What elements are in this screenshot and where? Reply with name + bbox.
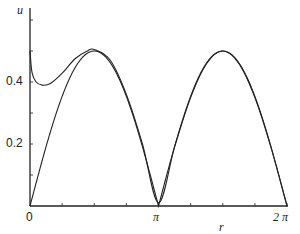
x-tick-label-2pi: 2 π <box>273 210 288 225</box>
x-tick-label-pi: π <box>153 210 159 225</box>
y-tick-label-0.2: 0.2 <box>6 136 23 150</box>
y-tick-label-0.4: 0.4 <box>6 74 23 88</box>
chart-plot <box>0 0 300 234</box>
series-curve-a <box>30 51 287 206</box>
data-series <box>30 49 287 206</box>
y-axis-label: u <box>17 3 23 18</box>
x-axis-label: r <box>219 220 224 234</box>
x-tick-label-0: 0 <box>26 210 33 224</box>
axis-ticks <box>30 20 287 206</box>
series-curve-b <box>30 49 287 206</box>
axes <box>30 8 288 206</box>
